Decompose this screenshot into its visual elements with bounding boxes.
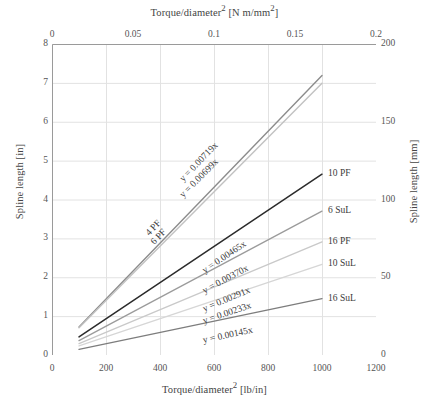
series-line xyxy=(79,299,322,350)
left-axis-title: Spline length [in] xyxy=(14,132,25,232)
ytick-right: 200 xyxy=(381,38,415,48)
series-line xyxy=(79,75,322,327)
series-name-label: 10 PF xyxy=(328,168,350,178)
ytick-left: 3 xyxy=(18,232,48,242)
series-line xyxy=(79,242,322,344)
series-name-label: 16 SuL xyxy=(328,293,356,303)
ytick-left: 7 xyxy=(18,77,48,87)
xtick-top: 0.1 xyxy=(194,29,234,39)
xtick-top: 0.05 xyxy=(113,29,153,39)
xtick-bottom: 1000 xyxy=(302,363,342,373)
xtick-bottom: 400 xyxy=(140,363,180,373)
right-axis-title: Spline length [mm] xyxy=(408,127,419,237)
ytick-left: 1 xyxy=(18,310,48,320)
xtick-bottom: 0 xyxy=(32,363,72,373)
series-line xyxy=(79,211,322,340)
series-name-label: 10 SuL xyxy=(328,258,356,268)
xtick-bottom: 200 xyxy=(86,363,126,373)
series-line xyxy=(79,83,322,328)
ytick-right: 100 xyxy=(381,194,415,204)
xtick-bottom: 800 xyxy=(248,363,288,373)
ytick-right: 150 xyxy=(381,116,415,126)
ytick-left: 5 xyxy=(18,155,48,165)
ytick-left: 0 xyxy=(18,349,48,359)
ytick-right: 50 xyxy=(381,271,415,281)
xtick-bottom: 600 xyxy=(194,363,234,373)
xtick-bottom: 1200 xyxy=(356,363,396,373)
ytick-left: 2 xyxy=(18,271,48,281)
bottom-axis-title: Torque/diameter2 [lb/in] xyxy=(0,380,429,395)
chart-figure: Torque/diameter2 [N m/mm2] Torque/diamet… xyxy=(0,0,429,403)
ytick-left: 6 xyxy=(18,116,48,126)
series-line xyxy=(79,174,322,337)
xtick-top: 0.15 xyxy=(275,29,315,39)
plot-area: y = 0.00465xy = 0.00370xy = 0.00291xy = … xyxy=(52,44,376,355)
top-axis-title: Torque/diameter2 [N m/mm2] xyxy=(0,3,429,18)
series-name-label: 16 PF xyxy=(328,236,350,246)
ytick-right: 0 xyxy=(381,349,415,359)
ytick-left: 4 xyxy=(18,194,48,204)
ytick-left: 8 xyxy=(18,38,48,48)
series-name-label: 6 SuL xyxy=(328,205,351,215)
